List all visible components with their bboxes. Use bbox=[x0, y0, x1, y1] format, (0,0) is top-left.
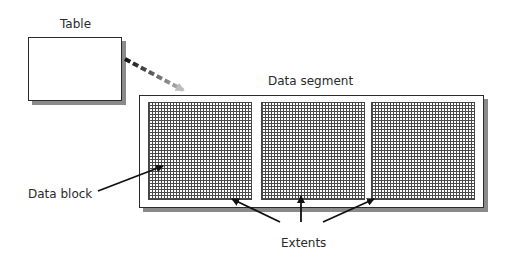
arrows-layer bbox=[0, 0, 512, 266]
extents-arrows bbox=[232, 196, 374, 222]
table-to-segment-arrow bbox=[125, 59, 183, 90]
data-block-arrow bbox=[98, 166, 163, 191]
